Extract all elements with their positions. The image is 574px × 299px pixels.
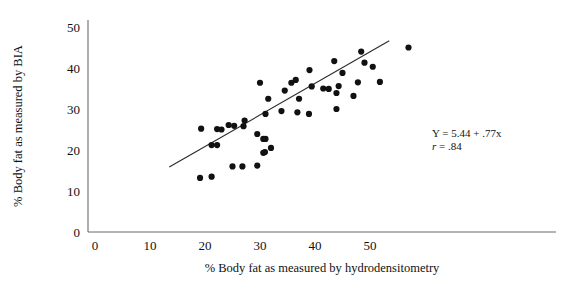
x-tick-label: 20 — [199, 238, 212, 253]
data-point — [331, 58, 337, 64]
y-axis-tick-labels: 01020304050 — [67, 20, 80, 240]
y-tick-label: 20 — [67, 143, 80, 158]
data-point — [293, 77, 299, 83]
y-axis-title: % Body fat as measured by BIA — [11, 45, 25, 207]
data-point — [214, 142, 220, 148]
data-point — [306, 111, 312, 117]
data-point — [239, 163, 245, 169]
data-point — [262, 136, 268, 142]
data-point — [333, 106, 339, 112]
x-axis-tick-labels: 01020304050 — [92, 238, 377, 253]
regression-line — [169, 41, 389, 167]
x-tick-label: 30 — [254, 238, 267, 253]
data-point — [229, 163, 235, 169]
data-point — [265, 96, 271, 102]
data-point — [209, 142, 215, 148]
data-point — [339, 70, 345, 76]
data-point — [326, 86, 332, 92]
data-point — [309, 83, 315, 89]
regression-equation-label: Y = 5.44 + .77x — [432, 127, 502, 139]
axes-group — [88, 20, 556, 232]
data-point — [377, 79, 383, 85]
data-point — [405, 44, 411, 50]
x-tick-label: 40 — [309, 238, 322, 253]
scatter-points-group — [197, 44, 412, 181]
data-point — [320, 85, 326, 91]
data-point — [336, 83, 342, 89]
data-point — [361, 60, 367, 66]
data-point — [282, 87, 288, 93]
y-tick-label: 10 — [67, 184, 80, 199]
data-point — [231, 123, 237, 129]
data-point — [254, 162, 260, 168]
data-point — [355, 79, 361, 85]
x-tick-label: 50 — [364, 238, 377, 253]
data-point — [257, 80, 263, 86]
scatter-plot-figure: 01020304050 01020304050 % Body fat as me… — [0, 0, 574, 299]
data-point — [242, 117, 248, 123]
y-tick-label: 50 — [67, 20, 80, 35]
data-point — [197, 175, 203, 181]
data-point — [240, 123, 246, 129]
y-tick-label: 40 — [67, 61, 80, 76]
data-point — [294, 109, 300, 115]
data-point — [358, 49, 364, 55]
y-tick-label: 0 — [74, 225, 81, 240]
data-point — [296, 96, 302, 102]
plot-canvas: 01020304050 01020304050 % Body fat as me… — [0, 0, 574, 299]
data-point — [262, 111, 268, 117]
correlation-label: r = .84 — [432, 140, 462, 152]
data-point — [226, 122, 232, 128]
data-point — [218, 126, 224, 132]
data-point — [198, 126, 204, 132]
data-point — [278, 108, 284, 114]
x-tick-label: 0 — [92, 238, 99, 253]
data-point — [370, 64, 376, 70]
data-point — [333, 90, 339, 96]
data-point — [254, 131, 260, 137]
data-point — [350, 93, 356, 99]
data-point — [262, 149, 268, 155]
correlation-value: = .84 — [436, 140, 462, 152]
x-axis-title: % Body fat as measured by hydrodensitome… — [205, 261, 440, 275]
data-point — [209, 174, 215, 180]
data-point — [268, 145, 274, 151]
data-point — [306, 67, 312, 73]
y-tick-label: 30 — [67, 102, 80, 117]
x-tick-label: 10 — [144, 238, 157, 253]
